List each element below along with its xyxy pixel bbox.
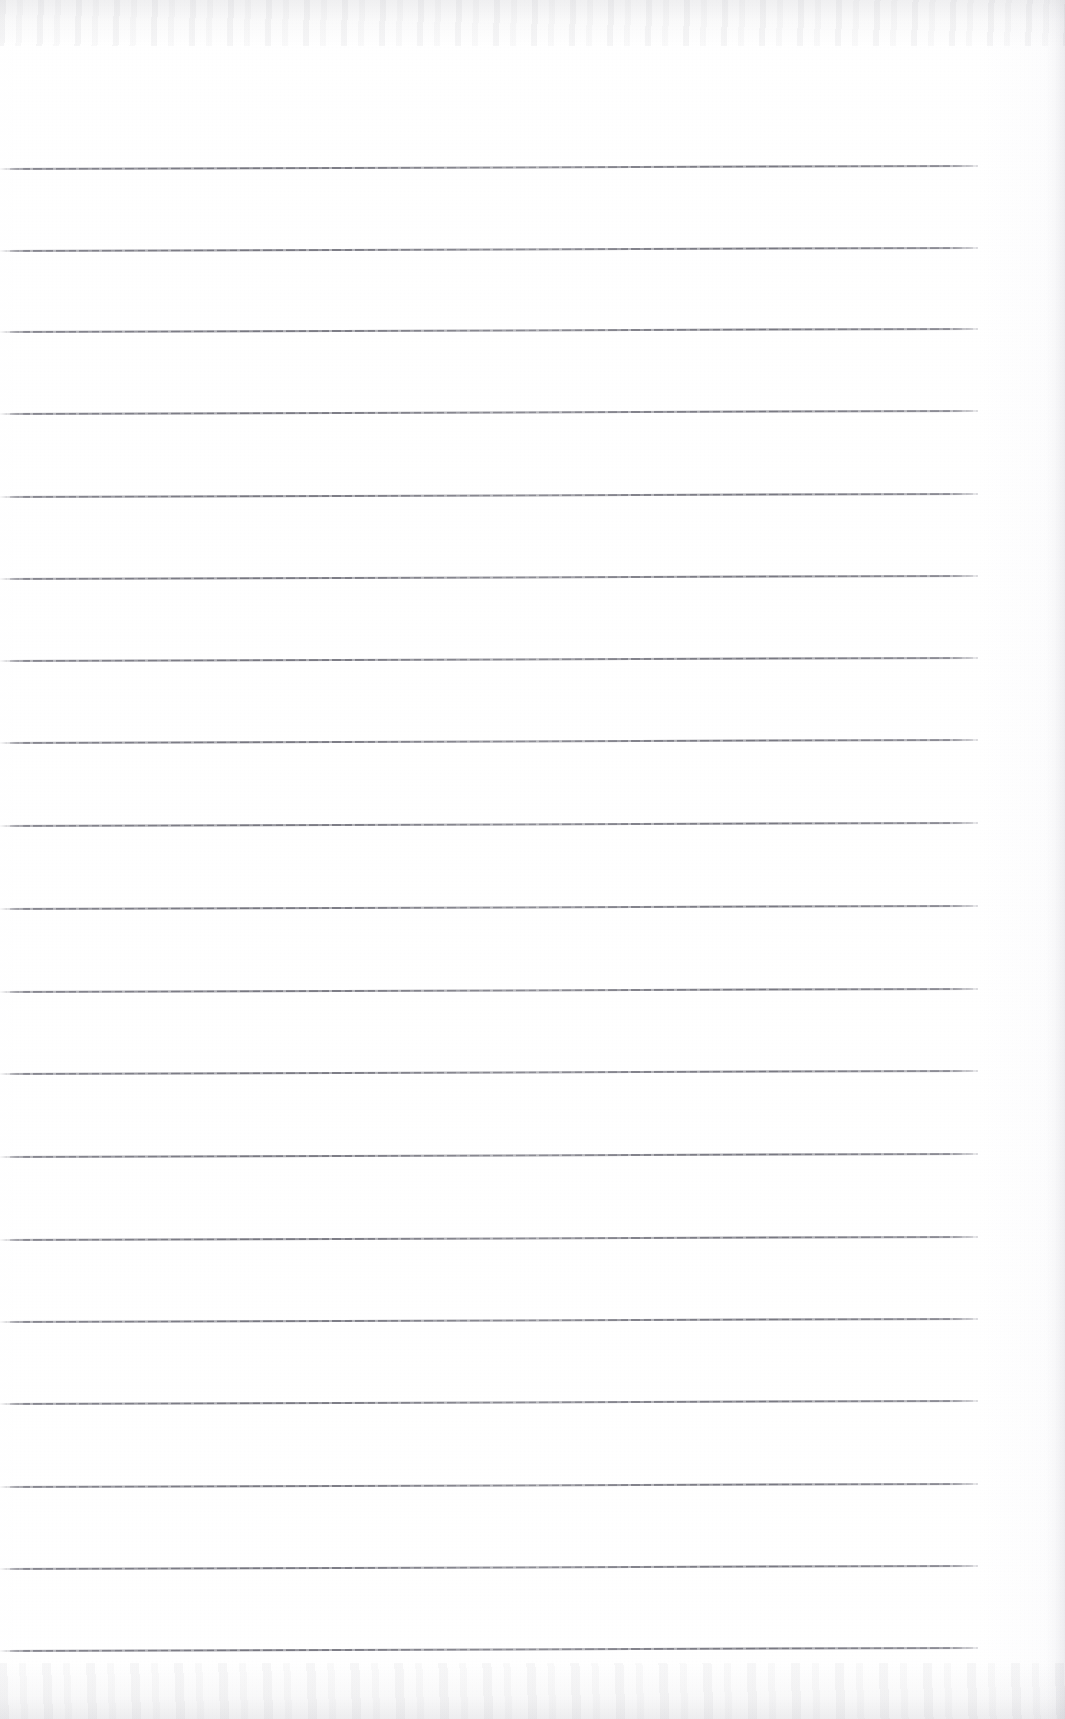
rule-line: [0, 1647, 978, 1652]
rule-line: [0, 1070, 978, 1075]
rule-line: [0, 493, 978, 498]
rule-line: [0, 739, 978, 744]
rule-line: [0, 1483, 978, 1488]
rule-line: [0, 575, 978, 580]
rule-line: [0, 1318, 978, 1323]
rule-line: [0, 657, 978, 662]
rule-line: [0, 410, 978, 415]
rule-line: [0, 1565, 978, 1570]
rule-line: [0, 1236, 978, 1241]
rule-line: [0, 328, 978, 333]
rule-line: [0, 905, 978, 910]
scanned-page: [0, 0, 1065, 1719]
ruled-lines-layer: [0, 0, 1065, 1719]
rule-line: [0, 247, 978, 252]
rule-line: [0, 1400, 978, 1405]
rule-line: [0, 1153, 978, 1158]
rule-line: [0, 165, 978, 170]
rule-line: [0, 822, 978, 827]
rule-line: [0, 988, 978, 993]
